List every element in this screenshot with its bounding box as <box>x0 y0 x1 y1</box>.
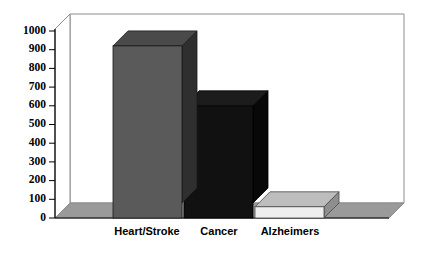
left-wall <box>55 14 70 218</box>
bar-group-heart-stroke[interactable] <box>113 31 197 218</box>
y-tick-label-900: 900 <box>29 42 47 54</box>
y-tick-label-800: 800 <box>29 61 47 73</box>
y-tick-label-0: 0 <box>40 211 46 223</box>
category-label-heart-stroke: Heart/Stroke <box>114 225 179 237</box>
bar-front-face <box>255 207 324 218</box>
y-tick-label-400: 400 <box>29 136 47 148</box>
y-tick-label-1000: 1000 <box>23 24 46 36</box>
axis-tick-labels: 1000 900 800 700 600 500 400 300 200 100… <box>23 24 46 223</box>
chart-canvas: 1000 900 800 700 600 500 400 300 200 100… <box>0 0 426 254</box>
y-tick-label-200: 200 <box>29 173 47 185</box>
bar-top-face <box>255 192 339 207</box>
y-tick-label-100: 100 <box>29 192 47 204</box>
bar-top-face <box>113 31 197 46</box>
y-tick-label-600: 600 <box>29 98 47 110</box>
axis-ticks <box>49 31 55 218</box>
y-tick-label-300: 300 <box>29 155 47 167</box>
category-label-cancer: Cancer <box>200 225 238 237</box>
bar-side-face <box>182 31 197 203</box>
bar-front-face <box>113 46 182 218</box>
bar-chart-figure: 1000 900 800 700 600 500 400 300 200 100… <box>0 0 426 254</box>
y-tick-label-700: 700 <box>29 80 47 92</box>
category-axis-labels: Heart/Stroke Cancer Alzheimers <box>114 225 319 237</box>
y-tick-label-500: 500 <box>29 117 47 129</box>
bar-side-face <box>253 91 268 203</box>
bar-group-alzheimers[interactable] <box>255 192 339 218</box>
category-label-alzheimers: Alzheimers <box>261 225 320 237</box>
